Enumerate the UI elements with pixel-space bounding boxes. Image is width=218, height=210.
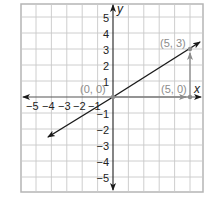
x-tick: −5 [26,100,39,112]
y-tick: −2 [96,124,109,136]
x-tick: −2 [73,100,86,112]
x-tick: −3 [58,100,71,112]
y-tick: 3 [103,44,109,56]
y-tick: −3 [96,140,109,152]
y-tick: 2 [103,60,109,72]
y-tick: −5 [96,172,109,184]
y-tick: 5 [103,12,109,24]
origin-label: (0, 0) [80,83,106,95]
y-axis-label: y [116,2,124,16]
coordinate-graph: y x (0, 0) (5, 3) (5, 0) −5 −4 −3 −2 −1 … [0,0,218,210]
x-tick: −4 [42,100,55,112]
point-5-0 [188,95,192,99]
y-tick: −1 [96,108,109,120]
point-origin [111,95,115,99]
x-axis-label: x [193,82,201,96]
y-tick: 4 [103,28,109,40]
y-tick: 1 [103,76,109,88]
point-5-3-label: (5, 3) [160,37,186,49]
point-5-0-label: (5, 0) [161,83,187,95]
y-tick: −4 [96,156,109,168]
x-tick-labels: −5 −4 −3 −2 −1 [26,100,101,112]
point-5-3 [188,47,192,51]
